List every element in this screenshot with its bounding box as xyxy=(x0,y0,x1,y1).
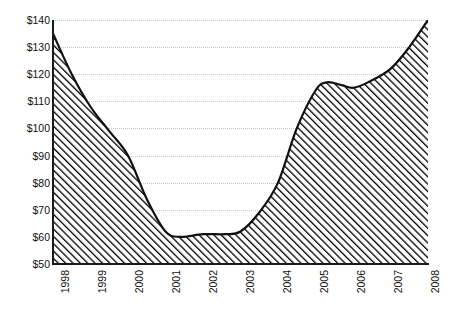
x-tick-label: 2001 xyxy=(171,270,182,293)
chart-container: $140 $130 $120 $110 $100 $90 $80 $70 $60… xyxy=(0,0,450,315)
x-tick-label: 1998 xyxy=(60,270,71,293)
x-axis-line xyxy=(52,263,429,265)
x-tick-label: 2005 xyxy=(319,270,330,293)
area-series xyxy=(0,0,450,315)
y-tick-label: $80 xyxy=(4,177,50,188)
y-axis-labels: $140 $130 $120 $110 $100 $90 $80 $70 $60… xyxy=(0,0,50,315)
y-axis-line xyxy=(52,20,54,265)
x-tick-label: 2006 xyxy=(356,270,367,293)
y-tick-label: $60 xyxy=(4,232,50,243)
x-tick-label: 2000 xyxy=(134,270,145,293)
y-tick-label: $50 xyxy=(4,259,50,270)
y-tick-label: $90 xyxy=(4,150,50,161)
x-tick-label: 2002 xyxy=(208,270,219,293)
y-tick-label: $140 xyxy=(4,15,50,26)
x-tick-label: 2008 xyxy=(430,270,441,293)
y-tick-label: $100 xyxy=(4,123,50,134)
x-tick-label: 2004 xyxy=(282,270,293,293)
y-tick-label: $130 xyxy=(4,42,50,53)
x-tick-label: 2007 xyxy=(393,270,404,293)
x-tick-label: 1999 xyxy=(97,270,108,293)
y-tick-label: $110 xyxy=(4,96,50,107)
area-fill xyxy=(53,20,428,264)
y-tick-label: $70 xyxy=(4,205,50,216)
y-tick-label: $120 xyxy=(4,69,50,80)
x-tick-label: 2003 xyxy=(245,270,256,293)
